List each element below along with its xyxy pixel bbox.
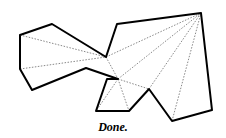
diagonal-line (96, 79, 118, 111)
triangulation-diagram (0, 0, 226, 138)
diagonal-line (20, 57, 106, 69)
polygon-outline (20, 13, 212, 121)
diagonal-line (172, 13, 201, 121)
diagonal-line (118, 79, 149, 89)
diagonals (20, 13, 201, 121)
caption-done: Done. (0, 120, 226, 135)
diagonal-line (20, 35, 106, 57)
diagonal-line (149, 13, 201, 89)
diagonal-line (118, 79, 129, 111)
